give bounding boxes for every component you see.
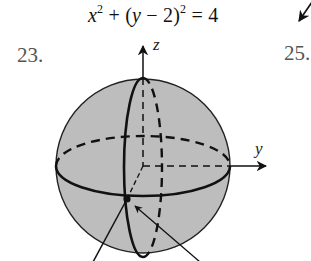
y-axis-label: y: [255, 139, 263, 159]
z-axis-label: z: [153, 35, 160, 55]
point-marker: [123, 195, 130, 202]
top-right-arrow-icon: [299, 2, 311, 21]
